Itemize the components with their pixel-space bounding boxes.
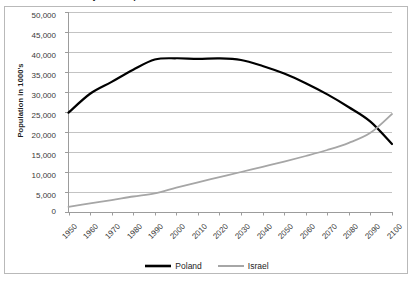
legend-swatch-israel	[218, 262, 244, 270]
legend-label-poland: Poland	[175, 261, 201, 271]
gridlines	[69, 13, 393, 213]
chart-legend: Poland Israel	[0, 261, 414, 271]
plot-area	[0, 0, 414, 286]
legend-swatch-poland	[145, 262, 171, 270]
chart-screenshot: Projected Population Growth of Poland an…	[0, 0, 414, 286]
legend-item-israel[interactable]: Israel	[218, 261, 269, 271]
legend-label-israel: Israel	[248, 261, 269, 271]
legend-item-poland[interactable]: Poland	[145, 261, 201, 271]
